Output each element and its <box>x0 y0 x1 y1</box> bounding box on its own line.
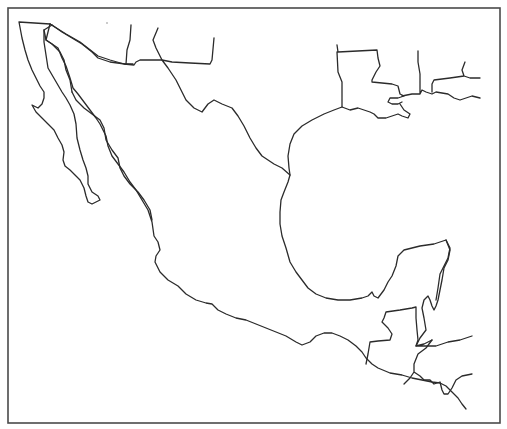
us-mexico-border <box>50 24 290 175</box>
yucatan-east-coast <box>416 240 450 346</box>
mississippi-alabama-borders <box>402 51 480 100</box>
map-frame <box>8 8 500 423</box>
baja-gulf-coast <box>44 30 72 92</box>
mainland-pacific-coast <box>46 24 466 409</box>
new-mexico-border <box>153 28 162 60</box>
honduras-el-salvador-borders <box>404 340 472 394</box>
guatemala-belize-borders <box>366 307 472 364</box>
gulf-of-mexico-coast <box>280 107 450 300</box>
stray-dot <box>106 22 108 24</box>
louisiana-outline <box>337 45 410 118</box>
arizona-border <box>126 25 131 64</box>
outline-map <box>0 0 507 429</box>
